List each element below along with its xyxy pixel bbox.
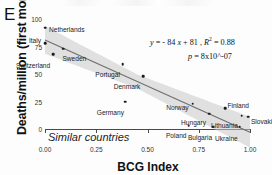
data-point xyxy=(208,112,211,115)
cropped-header-artifact xyxy=(60,0,220,6)
x-tick-label: 0.25 xyxy=(90,146,103,153)
data-point xyxy=(44,42,47,45)
y-tick-label: 25 xyxy=(26,98,42,105)
data-point xyxy=(238,126,241,129)
data-point xyxy=(247,116,250,119)
data-point-label: Finland xyxy=(227,103,249,110)
data-point xyxy=(124,100,127,103)
data-point-label: Poland xyxy=(166,133,187,140)
x-tick-label: 0.00 xyxy=(39,146,52,153)
x-tick-label: 1.00 xyxy=(244,146,257,153)
x-tick-label: 0.50 xyxy=(141,146,154,153)
data-point-label: Netherlands xyxy=(49,27,85,34)
data-point xyxy=(212,126,215,129)
data-point xyxy=(191,102,194,105)
data-point-label: Lithuania xyxy=(211,123,238,130)
data-point-label: Slovakia xyxy=(251,119,272,126)
data-point xyxy=(224,107,227,110)
data-point-label: Bulgaria xyxy=(188,135,212,142)
data-point-label: Ukraine xyxy=(215,136,238,143)
data-point-label: Portugal xyxy=(95,72,120,79)
data-point-label: Hungary xyxy=(181,120,206,127)
x-axis-label: BCG Index xyxy=(45,160,251,174)
x-tick-mark xyxy=(250,129,251,133)
y-tick-label: 0 xyxy=(26,126,42,133)
data-point xyxy=(241,115,244,118)
data-point xyxy=(52,53,55,56)
data-point-label: Norway xyxy=(166,105,188,112)
data-point-label: Germany xyxy=(97,110,124,117)
regression-equation-annotation: y = - 84 x + 81 , R2 = 0.88 xyxy=(150,36,235,47)
data-point-label: Denmark xyxy=(114,84,141,91)
data-point xyxy=(62,47,65,50)
data-point xyxy=(142,75,145,78)
plot-subtitle: Similar countries xyxy=(48,131,129,143)
data-point xyxy=(44,27,47,30)
figure-panel-e: E Deaths/million (first month) BCG Index… xyxy=(0,0,272,175)
data-point-label: Sweden xyxy=(62,56,86,63)
data-point-label: Switzerland xyxy=(16,63,50,70)
data-point xyxy=(122,63,125,66)
y-tick-label: 100 xyxy=(26,16,42,23)
data-point xyxy=(187,124,190,127)
panel-letter: E xyxy=(4,6,15,23)
plot-area: NetherlandsItalySwedenSwitzerlandPortuga… xyxy=(45,14,250,134)
x-tick-label: 0.75 xyxy=(192,146,205,153)
data-point-label: Italy xyxy=(29,38,41,45)
y-tick-label: 50 xyxy=(26,71,42,78)
p-value-annotation: p = 8x10^-07 xyxy=(188,52,232,61)
